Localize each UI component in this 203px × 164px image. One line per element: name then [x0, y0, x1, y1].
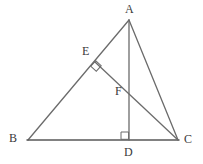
point-label-F: F — [115, 85, 122, 97]
geometry-canvas — [0, 0, 203, 164]
point-label-B: B — [9, 132, 17, 144]
segment-AC — [129, 20, 178, 140]
point-label-D: D — [124, 146, 133, 158]
segment-EC-perpendicular — [95, 62, 178, 140]
geometry-figure: A B C D E F — [0, 0, 203, 164]
point-label-E: E — [82, 45, 89, 57]
point-label-C: C — [184, 133, 192, 145]
point-label-A: A — [125, 3, 134, 15]
right-angle-marker-at-D — [121, 132, 129, 139]
